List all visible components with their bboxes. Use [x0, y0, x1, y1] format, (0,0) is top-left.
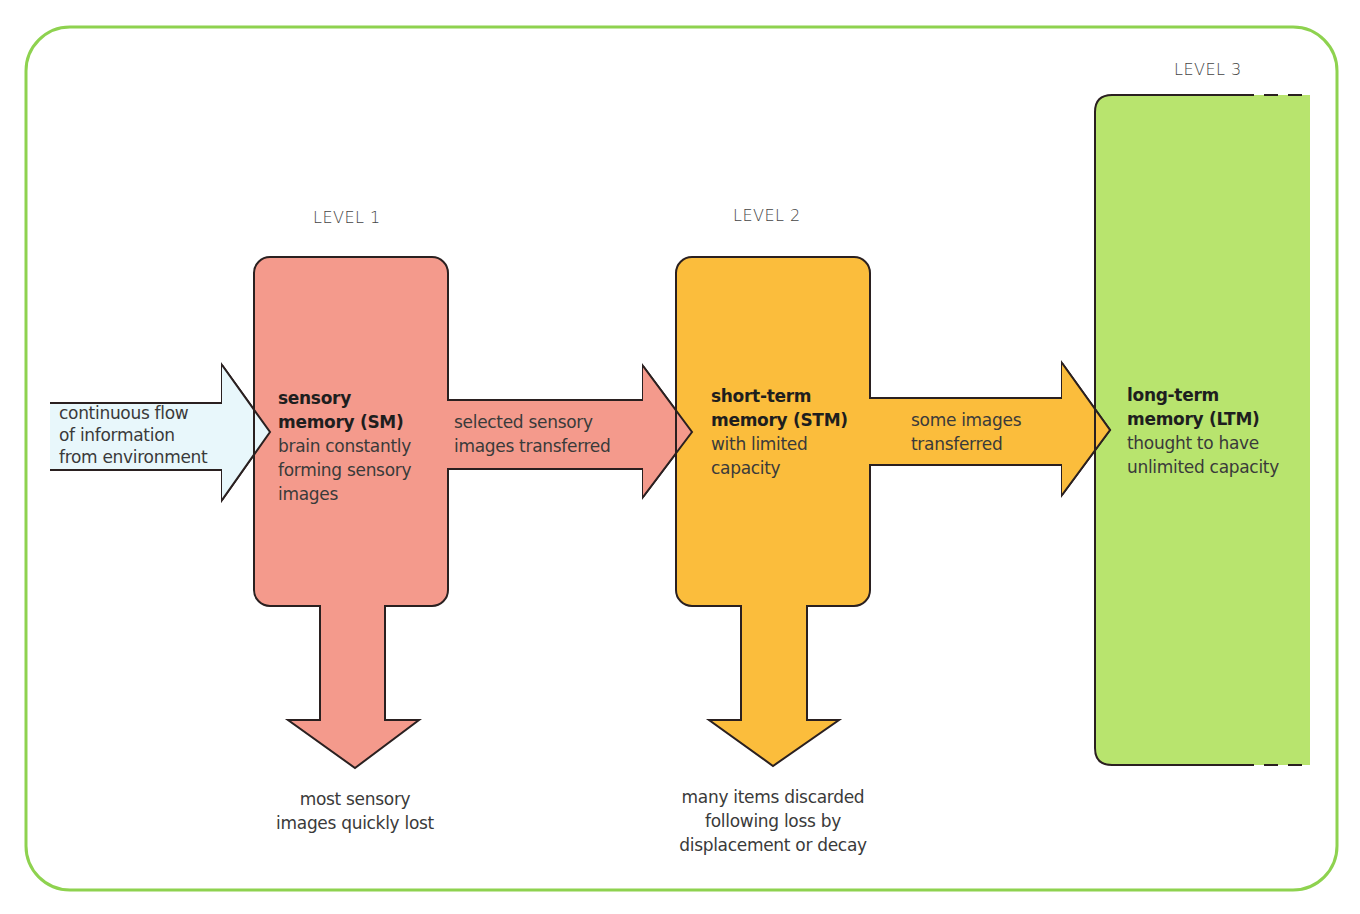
input-label: continuous flow of information from envi…	[59, 402, 207, 468]
stm-loss-arrow	[709, 590, 839, 766]
level-3-label: LEVEL 3	[1174, 60, 1242, 79]
long-term-memory-label: long-term memory (LTM) thought to have u…	[1127, 383, 1279, 479]
sm-loss-label: most sensory images quickly lost	[255, 787, 455, 835]
level-1-label: LEVEL 1	[313, 208, 381, 227]
level-2-label: LEVEL 2	[733, 206, 801, 225]
stm-to-ltm-label: some images transferred	[911, 408, 1021, 456]
stm-loss-label: many items discarded following loss by d…	[663, 785, 883, 857]
sm-loss-arrow	[288, 590, 419, 768]
sm-to-stm-label: selected sensory images transferred	[454, 410, 611, 458]
short-term-memory-label: short-term memory (STM) with limited cap…	[711, 384, 848, 480]
sensory-memory-label: sensory memory (SM) brain constantly for…	[278, 386, 411, 506]
